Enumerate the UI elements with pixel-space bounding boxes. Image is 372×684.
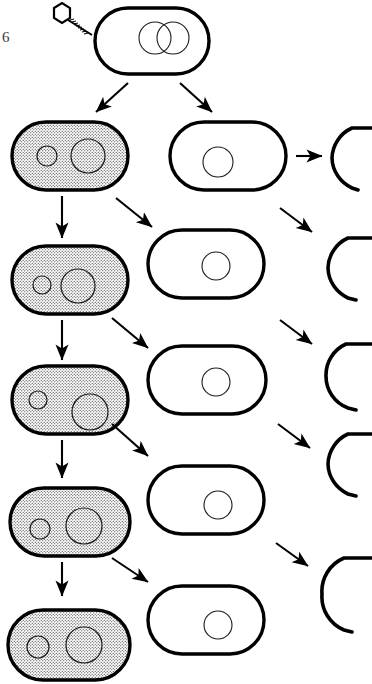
lysed-cell-4 [328,434,372,496]
figure-root: 6 [0,0,372,684]
lysis-arrow-2 [280,208,312,232]
lysis-arrow-3 [280,320,312,344]
lysed-cell-3 [326,344,372,410]
shaded-bacterium-5-wall [8,610,130,680]
lysed-cell-2 [328,238,372,300]
phage-head-icon [54,3,70,23]
division-arrow-diagonal-1 [116,198,152,227]
lysed-cell-5 [322,558,372,632]
division-arrow-to-shaded [96,83,128,112]
division-arrow-to-unshaded [180,83,212,112]
unshaded-bacterium-3-wall [148,346,266,414]
unshaded-bacterium-2 [148,230,264,298]
unshaded-bacterium-5-wall [148,586,264,654]
lysis-arrow-5 [276,543,308,566]
unshaded-bacterium-4-wall [148,466,264,534]
shaded-bacterium-1 [12,122,128,190]
shaded-bacterium-2 [12,246,128,314]
page-number: 6 [2,30,10,45]
shaded-bacterium-4 [10,488,130,556]
unshaded-bacterium-1 [170,122,286,190]
unshaded-bacterium-1-wall [170,122,286,190]
division-arrow-diagonal-3 [112,424,148,456]
lysis-arrow-4 [278,424,310,448]
division-arrow-diagonal-4 [112,558,148,582]
lysed-cell-1 [332,128,372,190]
shaded-bacterium-3 [12,366,128,434]
unshaded-bacterium-2-wall [148,230,264,298]
shaded-bacterium-5 [8,610,130,680]
unshaded-bacterium-4 [148,466,264,534]
infected-bacterium [95,8,209,74]
shaded-bacterium-1-wall [12,122,128,190]
unshaded-bacterium-3 [148,346,266,414]
lysogeny-diagram-canvas [0,0,372,684]
shaded-bacterium-4-wall [10,488,130,556]
infected-bacterium-wall [95,8,209,74]
unshaded-bacterium-5 [148,586,264,654]
shaded-bacterium-2-wall [12,246,128,314]
division-arrow-diagonal-2 [112,318,148,348]
